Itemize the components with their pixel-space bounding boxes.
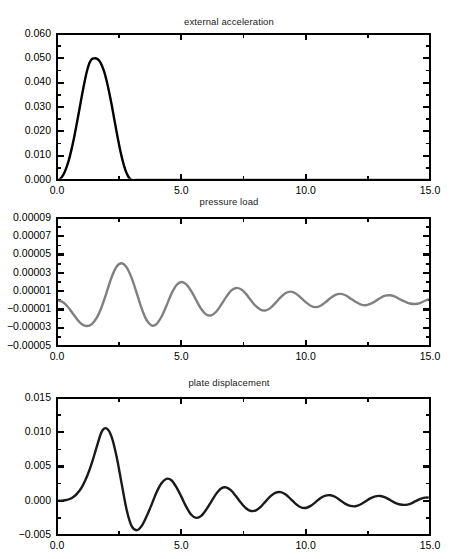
y-tick-label: 0.020 (25, 124, 51, 136)
x-tick-label: 5.0 (174, 184, 189, 196)
data-curve (57, 428, 430, 530)
x-tick-label: 15.0 (420, 539, 441, 551)
y-tick-label: 0.010 (25, 425, 51, 437)
chart-plot: −0.00005−0.00003−0.000010.000010.000030.… (0, 0, 458, 559)
y-tick-label: −0.00005 (7, 339, 51, 351)
chart-title: pressure load (0, 196, 458, 207)
y-tick-label: 0.00007 (13, 229, 51, 241)
y-tick-label: −0.00003 (7, 320, 51, 332)
chart-plot: 0.0000.0100.0200.0300.0400.0500.0600.05.… (0, 0, 458, 559)
plot-frame (57, 34, 430, 180)
chart-plot: −0.0050.0000.0050.0100.0150.05.010.015.0 (0, 0, 458, 559)
data-curve (57, 58, 430, 180)
y-tick-label: 0.010 (25, 148, 51, 160)
y-tick-label: 0.015 (25, 391, 51, 403)
y-tick-label: 0.060 (25, 27, 51, 39)
chart-title: external acceleration (0, 16, 458, 27)
x-tick-label: 10.0 (295, 350, 316, 362)
x-tick-label: 0.0 (50, 184, 65, 196)
plot-frame (57, 398, 430, 535)
y-tick-label: 0.000 (25, 173, 51, 185)
plot-frame (57, 218, 430, 346)
y-tick-label: 0.030 (25, 100, 51, 112)
y-tick-label: 0.005 (25, 459, 51, 471)
x-tick-label: 0.0 (50, 350, 65, 362)
x-tick-label: 15.0 (420, 350, 441, 362)
chart-title: plate displacement (0, 377, 458, 388)
x-tick-label: 5.0 (174, 350, 189, 362)
y-tick-label: 0.00005 (13, 247, 51, 259)
y-tick-label: 0.000 (25, 494, 51, 506)
y-tick-label: 0.040 (25, 75, 51, 87)
x-tick-label: 15.0 (420, 184, 441, 196)
data-curve (57, 263, 430, 326)
y-tick-label: 0.050 (25, 51, 51, 63)
figure-container: external acceleration0.0000.0100.0200.03… (0, 0, 458, 559)
x-tick-label: 5.0 (174, 539, 189, 551)
y-tick-label: 0.00003 (13, 266, 51, 278)
y-tick-label: 0.00001 (13, 284, 51, 296)
x-tick-label: 0.0 (50, 539, 65, 551)
y-tick-label: −0.005 (19, 528, 52, 540)
x-tick-label: 10.0 (295, 539, 316, 551)
y-tick-label: 0.00009 (13, 211, 51, 223)
x-tick-label: 10.0 (295, 184, 316, 196)
y-tick-label: −0.00001 (7, 302, 51, 314)
